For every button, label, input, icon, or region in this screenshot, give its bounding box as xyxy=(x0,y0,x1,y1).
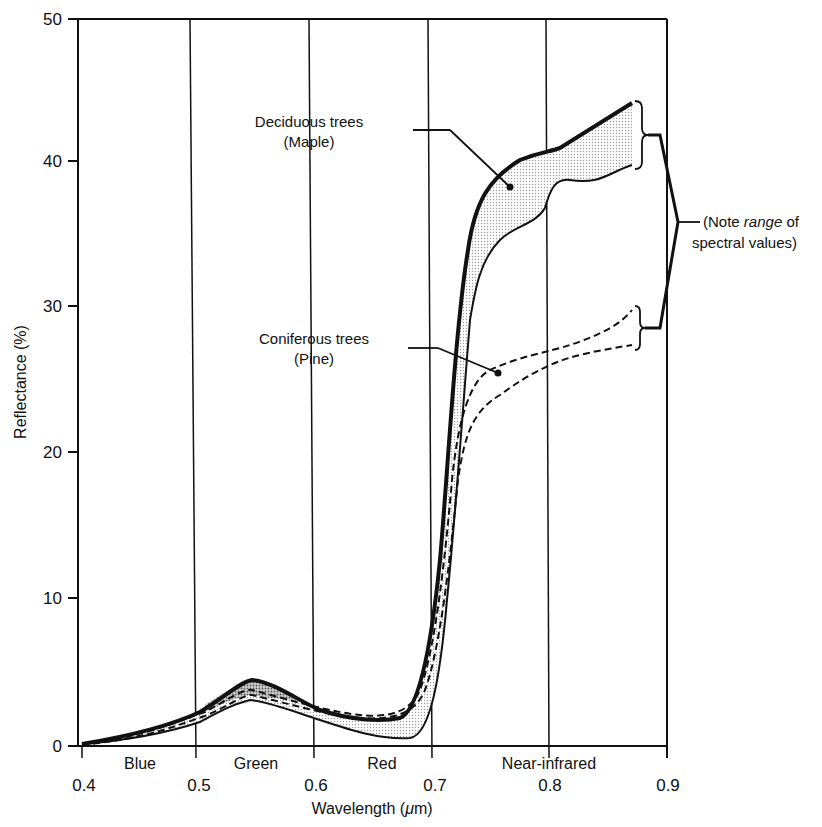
note-bracket-connector xyxy=(645,135,678,328)
y-tick-0: 0 xyxy=(53,737,62,756)
maple-lower-curve xyxy=(82,165,632,744)
spectral-band-labels: Blue Green Red Near-infrared xyxy=(124,755,596,772)
band-green: Green xyxy=(234,755,278,772)
x-tick-0.7: 0.7 xyxy=(423,776,447,795)
y-axis-title: Reflectance (%) xyxy=(12,325,29,439)
band-near-infrared: Near-infrared xyxy=(502,755,596,772)
pine-lower-curve xyxy=(82,345,632,745)
y-tick-40: 40 xyxy=(43,152,62,171)
x-tick-0.6: 0.6 xyxy=(304,776,328,795)
svg-text:Deciduous trees: Deciduous trees xyxy=(255,113,363,130)
svg-text:(Pine): (Pine) xyxy=(294,350,334,367)
pine-annotation: Coniferous trees (Pine) xyxy=(259,330,369,367)
pine-upper-curve xyxy=(82,310,632,744)
plot-frame xyxy=(78,19,667,758)
svg-text:(Maple): (Maple) xyxy=(284,133,335,150)
x-axis-title: Wavelength (μm) xyxy=(311,800,432,817)
maple-pointer-dot xyxy=(507,184,514,191)
range-note-annotation: (Note range of spectral values) xyxy=(692,213,800,251)
pine-range-bracket xyxy=(635,306,645,350)
x-tick-0.8: 0.8 xyxy=(538,776,562,795)
y-tick-50: 50 xyxy=(43,10,62,29)
band-blue: Blue xyxy=(124,755,156,772)
y-tick-20: 20 xyxy=(43,443,62,462)
maple-range-band xyxy=(82,103,632,744)
maple-annotation: Deciduous trees (Maple) xyxy=(255,113,363,150)
x-tick-0.4: 0.4 xyxy=(72,776,96,795)
x-tick-labels: 0.4 0.5 0.6 0.7 0.8 0.9 xyxy=(72,776,680,795)
svg-text:(Note range of: (Note range of xyxy=(703,213,800,230)
y-tick-30: 30 xyxy=(43,297,62,316)
band-red: Red xyxy=(367,755,396,772)
maple-upper-curve xyxy=(82,103,632,744)
reflectance-chart: 50 40 30 20 10 0 0.4 0.5 0.6 0.7 0.8 0.9… xyxy=(0,0,822,827)
svg-text:spectral values): spectral values) xyxy=(692,234,797,251)
maple-range-bracket xyxy=(635,101,648,169)
y-tick-10: 10 xyxy=(43,589,62,608)
y-ticks xyxy=(68,19,78,746)
svg-text:Coniferous trees: Coniferous trees xyxy=(259,330,369,347)
y-tick-labels: 50 40 30 20 10 0 xyxy=(43,10,62,756)
pine-pointer-dot xyxy=(495,370,502,377)
x-tick-0.5: 0.5 xyxy=(187,776,211,795)
x-tick-0.9: 0.9 xyxy=(656,776,680,795)
